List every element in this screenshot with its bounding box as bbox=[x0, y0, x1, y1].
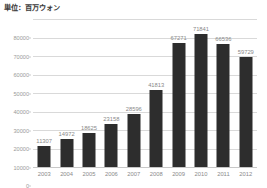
y-axis-tick-label: 40000 bbox=[13, 109, 29, 115]
y-axis-tick-label: 10000 bbox=[13, 165, 29, 171]
x-axis-tick-label: 2003 bbox=[38, 171, 51, 178]
bar-slot: 59729 bbox=[235, 19, 257, 167]
x-axis-tick-label: 2011 bbox=[217, 171, 229, 178]
x-axis: 2003200420052006200720082009201020112012 bbox=[33, 169, 257, 183]
bar[interactable] bbox=[217, 44, 230, 167]
y-axis-tick-mark bbox=[29, 167, 31, 168]
bar-slot: 41813 bbox=[145, 19, 167, 167]
y-axis-tick-label: 20000 bbox=[13, 146, 29, 152]
bar-slot: 14972 bbox=[55, 19, 77, 167]
y-axis-tick-label: 50000 bbox=[13, 91, 29, 97]
y-axis-tick-label: 80000 bbox=[13, 35, 29, 41]
bar-chart: 単位：百万ウォン 0100002000030000400005000060000… bbox=[0, 0, 267, 188]
bar-value-label: 71841 bbox=[193, 26, 209, 33]
y-axis-tick-mark bbox=[29, 75, 31, 76]
bar-value-label: 28596 bbox=[126, 106, 142, 113]
gridline bbox=[33, 167, 257, 168]
bar[interactable] bbox=[239, 57, 252, 167]
bar-value-label: 11307 bbox=[36, 138, 52, 145]
x-axis-tick-label: 2007 bbox=[127, 171, 140, 178]
bar-slot: 66536 bbox=[212, 19, 234, 167]
y-axis-tick-mark bbox=[29, 56, 31, 57]
bar[interactable] bbox=[60, 139, 73, 167]
bar-value-label: 23158 bbox=[103, 116, 119, 123]
chart-title: 単位：百万ウォン bbox=[4, 3, 60, 12]
x-axis-tick-label: 2008 bbox=[150, 171, 163, 178]
bar[interactable] bbox=[194, 34, 207, 167]
bar-value-label: 67271 bbox=[171, 35, 187, 42]
bar-value-label: 59729 bbox=[238, 49, 254, 56]
bar-slot: 71841 bbox=[190, 19, 212, 167]
bar[interactable] bbox=[172, 43, 185, 167]
bar-value-label: 66536 bbox=[215, 36, 231, 43]
bar-value-label: 18625 bbox=[81, 125, 97, 132]
bar-slot: 23158 bbox=[100, 19, 122, 167]
y-axis-tick-mark bbox=[29, 93, 31, 94]
bar-value-label: 14972 bbox=[59, 131, 75, 138]
plot-area: 1130714972186252315828596418136727171841… bbox=[33, 19, 257, 167]
bar-value-label: 41813 bbox=[148, 82, 164, 89]
bar[interactable] bbox=[105, 124, 118, 167]
y-axis: 0100002000030000400005000060000700008000… bbox=[0, 19, 31, 167]
bar-slot: 28596 bbox=[123, 19, 145, 167]
bar[interactable] bbox=[82, 133, 95, 167]
bar[interactable] bbox=[38, 146, 51, 167]
x-axis-tick-label: 2012 bbox=[239, 171, 252, 178]
x-axis-tick-label: 2006 bbox=[105, 171, 118, 178]
x-axis-tick-label: 2009 bbox=[172, 171, 185, 178]
bar-slot: 11307 bbox=[33, 19, 55, 167]
y-axis-tick-mark bbox=[29, 149, 31, 150]
bar[interactable] bbox=[127, 114, 140, 167]
bar-slot: 67271 bbox=[167, 19, 189, 167]
bar[interactable] bbox=[150, 90, 163, 167]
x-axis-tick-label: 2005 bbox=[83, 171, 96, 178]
y-axis-tick-label: 60000 bbox=[13, 72, 29, 78]
y-axis-tick-mark bbox=[29, 186, 31, 187]
y-axis-tick-mark bbox=[29, 38, 31, 39]
y-axis-tick-label: 70000 bbox=[13, 54, 29, 60]
x-axis-tick-label: 2004 bbox=[60, 171, 73, 178]
bar-slot: 18625 bbox=[78, 19, 100, 167]
x-axis-tick-label: 2010 bbox=[195, 171, 208, 178]
y-axis-tick-label: 30000 bbox=[13, 128, 29, 134]
y-axis-tick-mark bbox=[29, 130, 31, 131]
bars-layer: 1130714972186252315828596418136727171841… bbox=[33, 19, 257, 167]
y-axis-tick-mark bbox=[29, 112, 31, 113]
